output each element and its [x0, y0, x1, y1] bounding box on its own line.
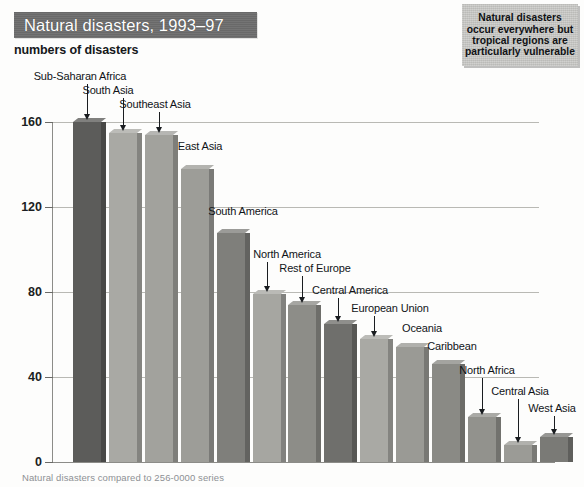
bar-face — [432, 364, 460, 462]
bar-side — [352, 324, 357, 462]
bar-face — [109, 133, 137, 462]
bar-face — [360, 339, 388, 462]
y-tick-mark-40 — [45, 377, 53, 378]
bar-side — [460, 364, 465, 462]
bar-side — [568, 437, 573, 463]
bar-side — [101, 122, 106, 462]
bar-top — [217, 229, 250, 233]
bar-label-oceania: Oceania — [402, 322, 442, 334]
y-tick-label-120: 120 — [4, 200, 42, 214]
bar-face — [468, 417, 496, 462]
bar-side — [173, 135, 178, 462]
y-tick-label-80: 80 — [4, 285, 42, 299]
callout-arrow-central-america — [338, 298, 339, 317]
bar-south-america[interactable] — [217, 233, 245, 463]
bar-label-central-america: Central America — [312, 284, 388, 296]
bar-label-central-asia: Central Asia — [491, 385, 549, 397]
bar-side — [424, 347, 429, 462]
plot-area: 04080120160 Sub-Saharan AfricaSouth Asia… — [0, 0, 584, 487]
bar-oceania[interactable] — [396, 347, 424, 462]
bar-face — [504, 445, 532, 462]
callout-arrow-north-america — [267, 262, 268, 287]
y-tick-mark-80 — [45, 292, 53, 293]
bar-top — [396, 343, 429, 347]
y-tick-label-0: 0 — [4, 455, 42, 469]
bar-face — [324, 324, 352, 462]
bar-top — [181, 165, 214, 169]
bar-face — [217, 233, 245, 463]
bar-face — [253, 294, 281, 462]
bar-central-asia[interactable] — [504, 445, 532, 462]
bar-side — [496, 417, 501, 462]
bar-caribbean[interactable] — [432, 364, 460, 462]
bar-southeast-asia[interactable] — [145, 135, 173, 462]
y-tick-label-40: 40 — [4, 370, 42, 384]
callout-arrow-north-africa — [482, 378, 483, 410]
bar-face — [288, 305, 316, 462]
callout-arrow-rest-of-europe — [302, 276, 303, 298]
bar-label-southeast-asia: Southeast Asia — [119, 98, 190, 110]
bar-central-america[interactable] — [324, 324, 352, 462]
bar-label-sub-saharan-africa: Sub-Saharan Africa — [34, 70, 127, 82]
bar-face — [540, 437, 568, 463]
bar-label-south-america: South America — [208, 205, 278, 217]
x-axis-line — [52, 462, 555, 463]
y-tick-mark-0 — [45, 462, 53, 463]
source-note: Natural disasters compared to 256-0000 s… — [22, 472, 224, 483]
bar-face — [73, 122, 101, 462]
bar-face — [181, 169, 209, 462]
bar-face — [145, 135, 173, 462]
bar-label-north-africa: North Africa — [459, 364, 515, 376]
callout-arrow-european-union — [374, 316, 375, 332]
y-tick-label-160: 160 — [4, 115, 42, 129]
bar-european-union[interactable] — [360, 339, 388, 462]
bar-south-asia[interactable] — [109, 133, 137, 462]
callout-arrow-central-asia — [518, 399, 519, 438]
bar-side — [532, 445, 537, 462]
callout-arrow-west-asia — [554, 416, 555, 430]
y-tick-mark-120 — [45, 207, 53, 208]
bar-face — [396, 347, 424, 462]
bar-label-east-asia: East Asia — [178, 140, 223, 152]
bar-side — [388, 339, 393, 462]
y-tick-mark-160 — [45, 122, 53, 123]
bar-rest-of-europe[interactable] — [288, 305, 316, 462]
bar-side — [245, 233, 250, 463]
bar-north-america[interactable] — [253, 294, 281, 462]
bar-side — [316, 305, 321, 462]
bar-west-asia[interactable] — [540, 437, 568, 463]
bar-label-north-america: North America — [253, 248, 321, 260]
bar-label-european-union: European Union — [351, 302, 428, 314]
chart-page: Natural disasters, 1993–97 numbers of di… — [0, 0, 584, 487]
bar-label-south-asia: South Asia — [82, 84, 133, 96]
bar-label-west-asia: West Asia — [528, 402, 575, 414]
bar-side — [137, 133, 142, 462]
bar-side — [281, 294, 286, 462]
gridline-160 — [52, 122, 539, 123]
callout-arrow-southeast-asia — [159, 112, 160, 128]
bar-label-rest-of-europe: Rest of Europe — [279, 262, 350, 274]
bar-label-caribbean: Caribbean — [427, 340, 476, 352]
bar-east-asia[interactable] — [181, 169, 209, 462]
bar-north-africa[interactable] — [468, 417, 496, 462]
bar-sub-saharan-africa[interactable] — [73, 122, 101, 462]
